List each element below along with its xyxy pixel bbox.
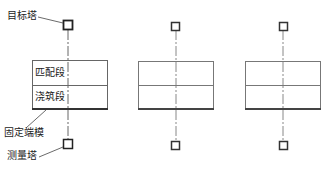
target-tower-marker-2 xyxy=(172,23,180,31)
leader-survey-tower xyxy=(39,147,63,157)
target-tower-marker-3 xyxy=(280,23,288,31)
leader-fixed-end-form xyxy=(26,110,46,128)
target-tower-marker-1 xyxy=(64,21,73,30)
label-matching-segment: 匹配段 xyxy=(35,67,65,79)
unit-3 xyxy=(245,23,321,150)
leader-target-tower xyxy=(38,17,63,23)
layout-diagram xyxy=(0,0,330,172)
survey-tower-marker-3 xyxy=(280,142,288,150)
survey-tower-marker-1 xyxy=(64,140,73,149)
label-survey-tower: 测量塔 xyxy=(7,150,37,162)
survey-tower-marker-2 xyxy=(172,142,180,150)
unit-2 xyxy=(138,23,214,150)
label-target-tower: 目标塔 xyxy=(7,10,37,22)
label-casting-segment: 浇筑段 xyxy=(35,91,65,103)
label-fixed-end-form: 固定端模 xyxy=(4,127,44,139)
